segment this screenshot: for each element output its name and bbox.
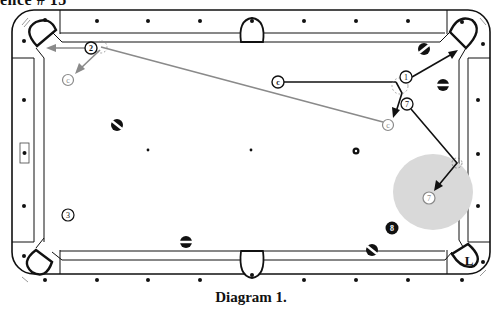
ball-8: 8 (386, 222, 399, 235)
ball-2: 2 (85, 42, 97, 54)
pocket-top-right (450, 18, 486, 48)
svg-text:c: c (276, 78, 280, 87)
pocket-bottom-left (22, 250, 52, 282)
cue-ball: c (272, 76, 284, 88)
cue-ghost-2: c (383, 120, 394, 131)
pool-table-diagram: 2 c c 1 7 c 7 3 (0, 0, 502, 312)
svg-text:8: 8 (390, 224, 394, 233)
ball-1: 1 (400, 71, 412, 83)
stripe-ball (366, 244, 378, 256)
solid-ball-small (353, 148, 360, 155)
svg-text:7: 7 (405, 100, 409, 109)
ball-3: 3 (62, 209, 74, 221)
right-cushion (459, 48, 468, 252)
svg-text:7: 7 (427, 194, 431, 203)
svg-text:1: 1 (404, 73, 408, 82)
stripe-ball (180, 236, 192, 248)
stripe-ball (418, 43, 430, 55)
left-cushion (34, 48, 44, 248)
svg-text:3: 3 (66, 211, 70, 220)
pocket-label: L (465, 253, 474, 268)
svg-text:c: c (386, 121, 390, 130)
stripe-ball (111, 119, 123, 131)
svg-text:c: c (66, 76, 70, 85)
foot-spot (147, 149, 150, 152)
center-spot (250, 149, 253, 152)
position-zone (393, 154, 473, 230)
svg-text:2: 2 (89, 44, 93, 53)
pocket-top-left (22, 18, 56, 46)
ball-7-ghost: 7 (423, 192, 435, 204)
cue-ghost-1: c (63, 75, 74, 86)
ball-7: 7 (401, 98, 413, 110)
stripe-ball (437, 79, 449, 91)
diagram-caption: Diagram 1. (0, 289, 502, 306)
